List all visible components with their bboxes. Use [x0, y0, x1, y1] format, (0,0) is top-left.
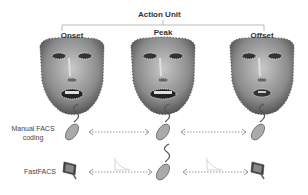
- dotted-arrow-1: [89, 129, 149, 135]
- manual-row-graphics: [63, 104, 268, 142]
- mouse-icon-peak-fast: [154, 144, 173, 182]
- phase-label-peak: Peak: [133, 28, 193, 37]
- row-label-manual-line2: coding: [0, 133, 66, 142]
- phase-label-onset: Onset: [42, 31, 102, 40]
- peak-face: [131, 37, 195, 115]
- phase-label-offset: Offset: [232, 31, 292, 40]
- offset-face: [230, 37, 294, 115]
- fastfacs-row-graphics: [63, 144, 264, 182]
- curve-hint-2: [207, 158, 222, 170]
- dotted-arrow-2: [181, 129, 246, 135]
- monitor-icon-onset: [63, 162, 76, 179]
- row-label-manual-line1: Manual FACS: [0, 124, 66, 133]
- onset-face: [40, 37, 104, 115]
- row-label-fastfacs: FastFACS: [20, 167, 60, 176]
- row-label-manual: Manual FACS coding: [0, 124, 66, 142]
- monitor-icon-offset: [251, 162, 264, 179]
- curve-hint-1: [115, 158, 130, 170]
